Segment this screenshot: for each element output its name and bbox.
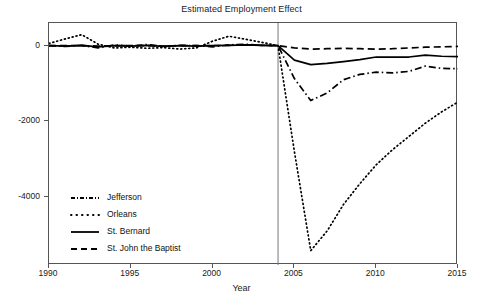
legend-item-st-bernard[interactable]: St. Bernard — [70, 223, 181, 240]
x-tick-label: 1995 — [110, 268, 150, 278]
x-tick-mark — [457, 264, 458, 268]
x-tick-mark — [130, 264, 131, 268]
y-tick-mark — [44, 196, 48, 197]
x-tick-label: 2015 — [437, 268, 477, 278]
y-tick-mark — [44, 45, 48, 46]
x-tick-mark — [375, 264, 376, 268]
y-tick-label: -4000 — [0, 191, 40, 201]
x-axis-label: Year — [0, 283, 483, 293]
x-tick-mark — [293, 264, 294, 268]
legend-label: St. Bernard — [107, 227, 150, 236]
legend-label: Jefferson — [107, 193, 142, 202]
x-tick-label: 2005 — [273, 268, 313, 278]
y-tick-label: 0 — [0, 40, 40, 50]
x-tick-mark — [212, 264, 213, 268]
legend-item-st-john-the-baptist[interactable]: St. John the Baptist — [70, 240, 181, 257]
legend-key-icon — [70, 226, 100, 238]
legend-label: Orleans — [107, 210, 137, 219]
chart-title: Estimated Employment Effect — [0, 4, 483, 14]
chart-figure: Estimated Employment Effect 0-2000-4000 … — [0, 0, 483, 306]
legend-key-icon — [70, 243, 100, 255]
series-line-jefferson — [49, 44, 458, 100]
legend-key-icon — [70, 192, 100, 204]
legend-key-icon — [70, 209, 100, 221]
legend-item-orleans[interactable]: Orleans — [70, 206, 181, 223]
x-tick-label: 1990 — [28, 268, 68, 278]
chart-legend: JeffersonOrleansSt. BernardSt. John the … — [70, 189, 181, 257]
x-tick-label: 2010 — [355, 268, 395, 278]
x-tick-label: 2000 — [192, 268, 232, 278]
y-tick-mark — [44, 120, 48, 121]
x-tick-mark — [48, 264, 49, 268]
y-tick-label: -2000 — [0, 115, 40, 125]
legend-item-jefferson[interactable]: Jefferson — [70, 189, 181, 206]
legend-label: St. John the Baptist — [107, 244, 181, 253]
